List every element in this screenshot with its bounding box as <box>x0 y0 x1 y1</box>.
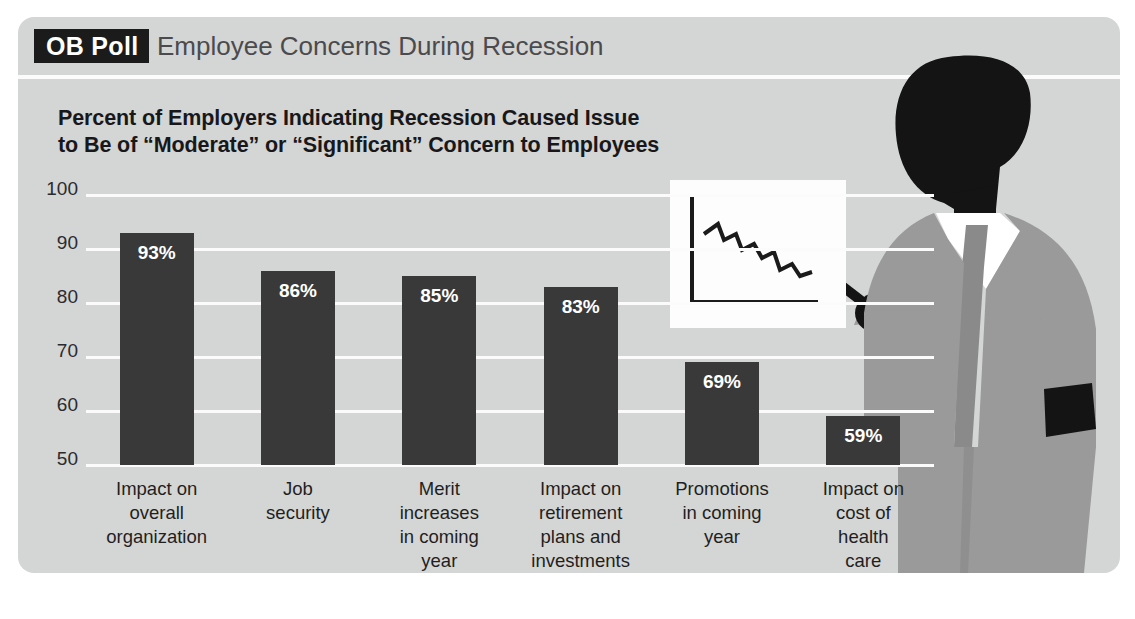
category-label-line: Impact on <box>794 477 932 501</box>
bar-value-label: 85% <box>402 285 476 307</box>
category-label-line: Merit <box>370 477 508 501</box>
y-axis-tick-label: 60 <box>34 395 78 414</box>
category-label-line: investments <box>512 549 650 573</box>
category-label-line: Impact on <box>88 477 226 501</box>
bar-value-label: 93% <box>120 242 194 264</box>
bar-group[interactable]: 93%Impact onoverallorganization <box>86 195 227 465</box>
y-axis-tick-label: 100 <box>34 179 78 198</box>
x-axis-category-label: Impact onretirementplans andinvestments <box>512 477 650 573</box>
bar-group[interactable]: 85%Meritincreasesin comingyear <box>369 195 510 465</box>
x-axis-category-label: Impact oncost ofhealthcare <box>794 477 932 573</box>
category-label-line: security <box>229 501 367 525</box>
bar-group[interactable]: 86%Jobsecurity <box>227 195 368 465</box>
y-axis-tick-label: 80 <box>34 287 78 306</box>
x-axis-category-label: Promotionsin comingyear <box>653 477 791 549</box>
bar-value-label: 83% <box>544 296 618 318</box>
bar[interactable]: 83% <box>544 287 618 465</box>
bar-value-label: 69% <box>685 371 759 393</box>
x-axis-category-label: Impact onoverallorganization <box>88 477 226 549</box>
category-label-line: health <box>794 525 932 549</box>
chart-subtitle-line-2: to Be of “Moderate” or “Significant” Con… <box>58 132 758 159</box>
category-label-line: care <box>794 549 932 573</box>
x-axis-category-label: Jobsecurity <box>229 477 367 525</box>
bar-group[interactable]: 69%Promotionsin comingyear <box>651 195 792 465</box>
bar[interactable]: 85% <box>402 276 476 465</box>
bar[interactable]: 86% <box>261 271 335 465</box>
category-label-line: Job <box>229 477 367 501</box>
category-label-line: cost of <box>794 501 932 525</box>
category-label-line: plans and <box>512 525 650 549</box>
category-label-line: Promotions <box>653 477 791 501</box>
bar-chart-plot: 1009080706050 93%Impact onoverallorganiz… <box>34 195 934 465</box>
category-label-line: Impact on <box>512 477 650 501</box>
y-axis-tick-label: 50 <box>34 449 78 468</box>
category-label-line: in coming <box>370 525 508 549</box>
category-label-line: overall <box>88 501 226 525</box>
y-axis-tick-label: 90 <box>34 233 78 252</box>
header-divider <box>18 75 1120 79</box>
chart-panel: OB Poll Employee Concerns During Recessi… <box>18 17 1120 573</box>
x-axis-category-label: Meritincreasesin comingyear <box>370 477 508 573</box>
chart-subtitle: Percent of Employers Indicating Recessio… <box>58 105 758 159</box>
chart-subtitle-line-1: Percent of Employers Indicating Recessio… <box>58 105 758 132</box>
category-label-line: organization <box>88 525 226 549</box>
category-label-line: in coming <box>653 501 791 525</box>
bar-group[interactable]: 59%Impact oncost ofhealthcare <box>793 195 934 465</box>
y-axis-tick-label: 70 <box>34 341 78 360</box>
page-title: Employee Concerns During Recession <box>157 29 604 63</box>
bar[interactable]: 69% <box>685 362 759 465</box>
ob-poll-badge: OB Poll <box>34 29 149 63</box>
bar-series: 93%Impact onoverallorganization86%Jobsec… <box>86 195 934 465</box>
category-label-line: year <box>653 525 791 549</box>
poll-infographic: OB Poll Employee Concerns During Recessi… <box>0 0 1135 619</box>
header-bar: OB Poll Employee Concerns During Recessi… <box>18 17 1120 75</box>
bar-value-label: 86% <box>261 280 335 302</box>
bar[interactable]: 93% <box>120 233 194 465</box>
category-label-line: year <box>370 549 508 573</box>
bar-value-label: 59% <box>826 425 900 447</box>
bar[interactable]: 59% <box>826 416 900 465</box>
category-label-line: increases <box>370 501 508 525</box>
bar-group[interactable]: 83%Impact onretirementplans andinvestmen… <box>510 195 651 465</box>
category-label-line: retirement <box>512 501 650 525</box>
